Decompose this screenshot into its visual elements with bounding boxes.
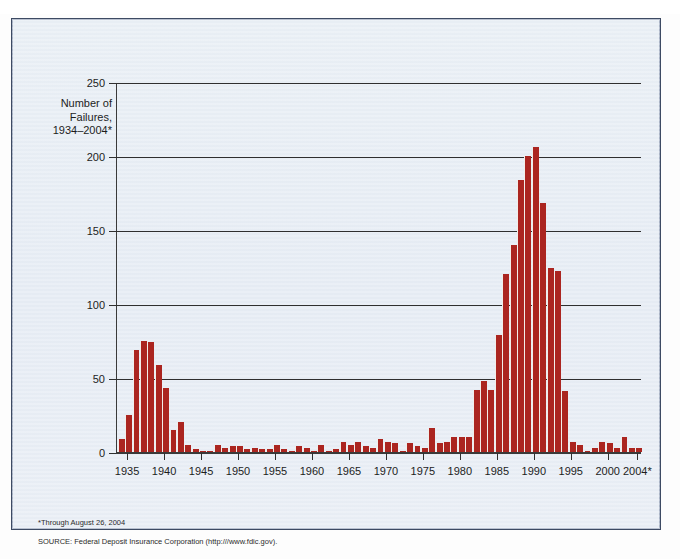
x-tick-1990	[534, 453, 535, 460]
bar-1986	[502, 274, 509, 452]
x-tick-1985	[497, 453, 498, 460]
bar-series	[117, 83, 641, 452]
y-tick-label-200: 200	[87, 151, 105, 163]
bar-1979	[450, 437, 457, 452]
bar-1987	[510, 245, 517, 452]
bar-1942	[177, 422, 184, 452]
y-axis-title-line-3: 1934–2004*	[34, 124, 112, 138]
bar-1981	[465, 437, 472, 452]
bar-1946	[206, 451, 213, 453]
bar-1997	[584, 451, 591, 453]
footnote-line-2: SOURCE: Federal Deposit Insurance Corpor…	[38, 537, 277, 547]
y-tick-100	[109, 305, 116, 306]
y-tick-150	[109, 231, 116, 232]
bar-1993	[554, 271, 561, 452]
bar-1955	[273, 445, 280, 452]
bar-1956	[280, 449, 287, 452]
x-tick-1940	[164, 453, 165, 460]
bar-1998	[591, 448, 598, 452]
bar-1973	[406, 443, 413, 452]
x-tick-label-1975: 1975	[411, 465, 435, 477]
top-caption-strip	[0, 0, 680, 14]
bar-2002	[621, 437, 628, 452]
bar-1965	[347, 445, 354, 452]
y-axis-title-line-1: Number of	[34, 97, 112, 111]
x-tick-1935	[127, 453, 128, 460]
x-tick-1945	[201, 453, 202, 460]
figure-page: Number of Failures, 1934–2004* 050100150…	[0, 0, 680, 559]
y-tick-label-50: 50	[93, 373, 105, 385]
bar-1954	[266, 449, 273, 452]
bar-2004	[635, 448, 642, 452]
bar-1960	[310, 451, 317, 453]
x-tick-label-1985: 1985	[485, 465, 509, 477]
bar-1985	[495, 335, 502, 452]
bar-1999	[598, 442, 605, 452]
bar-2001	[613, 448, 620, 452]
x-tick-1965	[349, 453, 350, 460]
x-tick-label-1970: 1970	[374, 465, 398, 477]
x-tick-1960	[312, 453, 313, 460]
x-tick-1970	[386, 453, 387, 460]
bar-1941	[170, 430, 177, 452]
bar-1945	[199, 451, 206, 453]
bar-1978	[443, 442, 450, 452]
bar-1951	[243, 449, 250, 452]
bar-1975	[421, 448, 428, 452]
bar-1963	[332, 449, 339, 452]
bar-1968	[369, 448, 376, 452]
bar-1983	[480, 381, 487, 452]
bar-1992	[547, 268, 554, 452]
x-tick-1975	[423, 453, 424, 460]
y-tick-0	[109, 453, 116, 454]
x-tick-label-2004: 2004*	[623, 465, 652, 477]
gridline-0	[116, 453, 641, 454]
bar-1971	[391, 443, 398, 452]
x-tick-1955	[275, 453, 276, 460]
bar-1995	[569, 442, 576, 452]
bar-1991	[539, 203, 546, 452]
bar-1966	[354, 442, 361, 452]
bar-1958	[295, 446, 302, 452]
bar-1994	[561, 391, 568, 452]
bar-1949	[229, 446, 236, 452]
figure-frame: Number of Failures, 1934–2004* 050100150…	[11, 18, 661, 530]
bar-1948	[221, 448, 228, 452]
x-tick-label-1965: 1965	[337, 465, 361, 477]
bar-1977	[436, 443, 443, 452]
x-tick-label-1955: 1955	[263, 465, 287, 477]
x-tick-1980	[460, 453, 461, 460]
y-tick-label-0: 0	[99, 447, 105, 459]
bar-1938	[147, 342, 154, 452]
bar-1972	[399, 451, 406, 453]
bar-1950	[236, 446, 243, 452]
x-tick-2000	[608, 453, 609, 460]
bar-1982	[473, 390, 480, 452]
bar-2003	[628, 448, 635, 452]
bar-1937	[140, 341, 147, 452]
bar-1936	[133, 350, 140, 452]
bar-1944	[192, 449, 199, 452]
bar-1935	[125, 415, 132, 452]
bar-1961	[317, 445, 324, 452]
x-tick-label-1980: 1980	[448, 465, 472, 477]
bar-1976	[428, 428, 435, 452]
x-tick-label-1935: 1935	[115, 465, 139, 477]
y-axis-title: Number of Failures, 1934–2004*	[34, 97, 112, 138]
x-tick-2004	[637, 453, 638, 460]
bar-1989	[524, 156, 531, 452]
bar-1996	[576, 445, 583, 452]
bar-1943	[184, 445, 191, 452]
x-tick-label-1960: 1960	[300, 465, 324, 477]
bar-1969	[377, 439, 384, 452]
bar-1984	[487, 390, 494, 452]
y-tick-250	[109, 83, 116, 84]
x-tick-label-1950: 1950	[226, 465, 250, 477]
x-tick-label-1945: 1945	[189, 465, 213, 477]
bar-1952	[251, 448, 258, 452]
bar-1957	[288, 451, 295, 453]
bar-1980	[458, 437, 465, 452]
bar-1970	[384, 442, 391, 452]
bar-1974	[414, 446, 421, 452]
bar-1934	[118, 439, 125, 452]
